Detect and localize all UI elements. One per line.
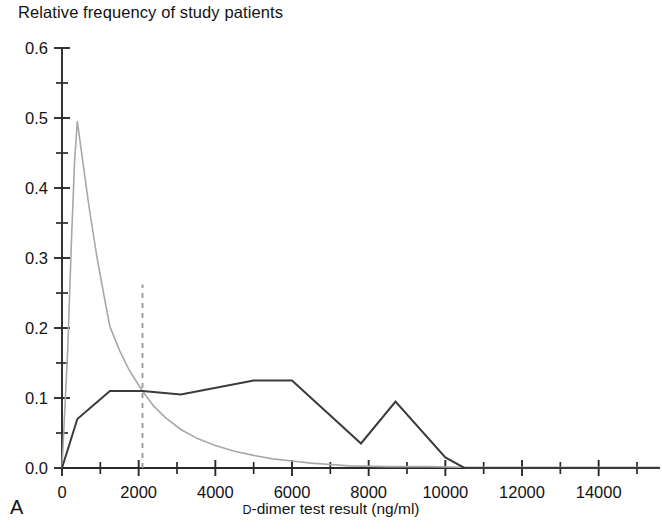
x-axis-title-rest: -dimer test result (ng/ml) xyxy=(252,500,420,517)
axes-group xyxy=(54,48,660,476)
series-group xyxy=(62,122,660,469)
y-tick-label: 0.3 xyxy=(25,249,48,267)
y-tick-label: 0.4 xyxy=(25,179,48,197)
x-axis-title: D-dimer test result (ng/ml) xyxy=(0,500,662,518)
x-tick-label: 6000 xyxy=(274,483,311,501)
y-tick-label: 0.6 xyxy=(25,39,48,57)
x-axis-title-prefix: D xyxy=(243,503,252,517)
x-tick-label: 10000 xyxy=(422,483,468,501)
x-tick-label: 2000 xyxy=(120,483,157,501)
series-dark-curve xyxy=(62,381,660,469)
x-tick-label: 12000 xyxy=(499,483,545,501)
y-tick-label: 0.5 xyxy=(25,109,48,127)
x-tick-label: 14000 xyxy=(576,483,622,501)
figure-panel-a: Relative frequency of study patients 0.0… xyxy=(0,0,662,531)
chart-canvas: 0.00.10.20.30.40.50.60200040006000800010… xyxy=(0,0,662,531)
tick-labels-group: 0.00.10.20.30.40.50.60200040006000800010… xyxy=(25,39,622,501)
x-tick-label: 8000 xyxy=(350,483,387,501)
series-light-curve xyxy=(62,122,660,469)
x-tick-label: 0 xyxy=(57,483,66,501)
x-tick-label: 4000 xyxy=(197,483,234,501)
y-tick-label: 0.0 xyxy=(25,459,48,477)
y-tick-label: 0.2 xyxy=(25,319,48,337)
y-tick-label: 0.1 xyxy=(25,389,48,407)
